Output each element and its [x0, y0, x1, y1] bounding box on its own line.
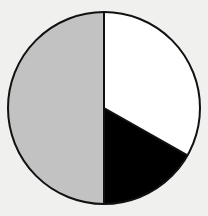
- pie-chart-svg: [0, 0, 208, 216]
- pie-chart-container: [0, 0, 208, 216]
